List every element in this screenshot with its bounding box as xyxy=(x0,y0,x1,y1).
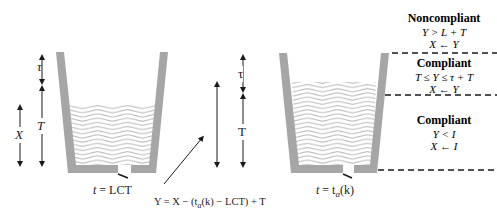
right-bucket xyxy=(279,53,389,178)
formula-pointer xyxy=(164,138,202,184)
T-label-left: T xyxy=(37,118,44,134)
caption-eq: = LCT xyxy=(96,183,131,197)
T-label-right: T xyxy=(238,124,246,140)
left-bucket-caption: t = LCT xyxy=(93,183,132,198)
tau-label-right: τ xyxy=(238,66,243,82)
left-drain-pointer xyxy=(118,174,128,178)
right-bucket-water xyxy=(292,82,376,165)
zone-condition: Y > L + T xyxy=(384,26,497,38)
right-bucket-caption: t = ta(k) xyxy=(316,183,354,199)
zone-compliant-lower: Compliant Y < I X ← I xyxy=(384,113,497,152)
zone-update: X ← Y xyxy=(384,38,497,50)
zone-title: Compliant xyxy=(384,113,497,128)
tau-label-left: τ xyxy=(37,59,42,75)
zone-update: X ← Y xyxy=(384,83,497,95)
zone-title: Noncompliant xyxy=(384,11,497,26)
zone-condition: Y < I xyxy=(384,128,497,140)
caption-eq: = t xyxy=(319,183,335,197)
right-drain-pointer xyxy=(343,174,352,178)
formula-tail: (k) − LCT) + T xyxy=(202,196,266,207)
caption-tail: (k) xyxy=(340,183,354,197)
zone-update: X ← I xyxy=(384,140,497,152)
formula-label: Y = X − (ta(k) − LCT) + T xyxy=(154,196,266,210)
left-bucket-water xyxy=(70,105,155,165)
zone-title: Compliant xyxy=(384,56,497,71)
X-label: X xyxy=(15,127,23,143)
zone-compliant-upper: Compliant T ≤ Y ≤ τ + T X ← Y xyxy=(384,56,497,95)
zone-noncompliant: Noncompliant Y > L + T X ← Y xyxy=(384,11,497,50)
middle-arrows xyxy=(164,57,243,184)
zone-condition: T ≤ Y ≤ τ + T xyxy=(384,71,497,83)
left-bucket xyxy=(56,52,168,178)
formula-text: Y = X − (t xyxy=(154,196,198,207)
